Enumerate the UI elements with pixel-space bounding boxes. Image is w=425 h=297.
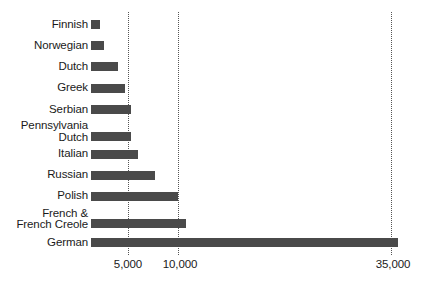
bar-row: Greek — [0, 78, 425, 99]
category-label-polish: Polish — [0, 190, 88, 202]
bar-russian — [91, 171, 155, 180]
xtick-label-5000: 5,000 — [114, 258, 142, 270]
category-label-pennsylvania-dutch: Pennsylvania Dutch — [0, 120, 88, 144]
xtick-label-10000: 10,000 — [163, 258, 198, 270]
category-label-greek: Greek — [0, 82, 88, 94]
bar-row: Norwegian — [0, 35, 425, 56]
category-label-german: German — [0, 237, 88, 249]
bar-rows: Finnish Norwegian Dutch Greek Serbian Pe — [0, 14, 425, 252]
bar-italian — [91, 150, 138, 159]
bar-row: Russian — [0, 164, 425, 185]
bar-german — [91, 238, 398, 247]
bar-row: Finnish — [0, 14, 425, 35]
bar-norwegian — [91, 41, 104, 50]
bar-row: German — [0, 230, 425, 252]
plot-area: Finnish Norwegian Dutch Greek Serbian Pe — [0, 0, 425, 297]
category-label-italian: Italian — [0, 148, 88, 160]
bar-row: Dutch — [0, 56, 425, 77]
bar-row: French & French Creole — [0, 207, 425, 230]
bar-pennsylvania-dutch — [91, 132, 131, 141]
category-label-dutch: Dutch — [0, 61, 88, 73]
bar-dutch — [91, 62, 118, 71]
category-label-french-french-creole: French & French Creole — [0, 208, 88, 232]
bar-row: Italian — [0, 143, 425, 164]
bar-finnish — [91, 20, 100, 29]
category-label-finnish: Finnish — [0, 19, 88, 31]
bar-french-french-creole — [91, 219, 186, 228]
bar-row: Polish — [0, 185, 425, 206]
category-label-norwegian: Norwegian — [0, 40, 88, 52]
category-label-serbian: Serbian — [0, 104, 88, 116]
bar-chart: Finnish Norwegian Dutch Greek Serbian Pe — [0, 0, 425, 297]
category-label-russian: Russian — [0, 169, 88, 181]
bar-row: Pennsylvania Dutch — [0, 120, 425, 143]
bar-greek — [91, 84, 125, 93]
bar-polish — [91, 192, 178, 201]
xtick-label-35000: 35,000 — [376, 258, 411, 270]
bar-row: Serbian — [0, 99, 425, 120]
bar-serbian — [91, 105, 131, 114]
